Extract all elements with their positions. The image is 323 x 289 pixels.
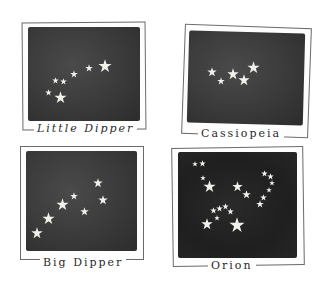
star-icon	[242, 190, 251, 199]
star-icon	[214, 215, 220, 221]
star-icon	[207, 67, 217, 77]
star-icon	[247, 61, 260, 74]
star-icon	[238, 74, 250, 86]
constellation-label: Little Dipper	[34, 122, 137, 135]
star-icon	[217, 77, 225, 85]
star-icon	[42, 212, 55, 225]
star-icon	[45, 89, 52, 96]
star-icon	[203, 180, 216, 193]
star-icon	[85, 64, 93, 72]
star-icon	[266, 187, 272, 193]
night-sky	[178, 152, 297, 258]
star-icon	[229, 217, 245, 233]
star-icon	[199, 160, 206, 167]
star-icon	[267, 173, 274, 180]
star-icon	[269, 180, 275, 186]
constellation-label: Cassiopeia	[198, 127, 284, 140]
star-icon	[70, 70, 78, 78]
star-icon	[93, 178, 103, 188]
night-sky	[28, 27, 140, 121]
star-icon	[54, 91, 67, 104]
star-icon	[31, 227, 43, 239]
star-icon	[60, 78, 67, 85]
star-icon	[256, 200, 264, 208]
star-icon	[80, 207, 89, 216]
star-icon	[52, 77, 59, 84]
star-icon	[201, 218, 213, 230]
star-icon	[227, 208, 234, 215]
star-icon	[70, 192, 78, 200]
star-icon	[98, 195, 108, 205]
constellation-label: Big Dipper	[40, 256, 126, 269]
star-icon	[98, 59, 112, 73]
constellation-label: Orion	[208, 259, 256, 272]
star-icon	[192, 161, 198, 167]
star-icon	[56, 198, 69, 211]
